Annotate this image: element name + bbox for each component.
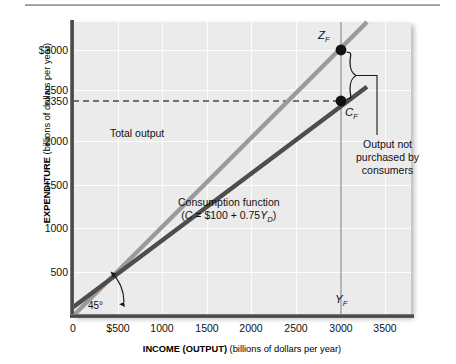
annotation-yf: YF — [335, 292, 347, 309]
annotation-output-not-purchased: Output not purchased by consumers — [335, 138, 440, 177]
annotation-output-not-line1: Output not — [363, 138, 412, 150]
y-tick-500: 500 — [0, 266, 68, 278]
eq-close-paren: ) — [273, 209, 277, 221]
annotation-yf-main: Y — [335, 293, 343, 305]
y-axis-title: EXPENDITURE (billions of dollars per yea… — [42, 38, 52, 228]
annotation-consumption-function-equation: (C = $100 + 0.75YD) — [181, 209, 276, 221]
x-axis-line — [70, 314, 414, 318]
y-tick-1500: 1500 — [0, 179, 68, 191]
annotation-cf-subscript: F — [353, 112, 358, 121]
x-tick-500: $500 — [106, 322, 129, 334]
x-tick-2000: 2000 — [239, 322, 262, 334]
y-axis-title-bold: EXPENDITURE — [42, 157, 52, 223]
x-tick-1500: 1500 — [195, 322, 218, 334]
figure-container: $3000 2500 2350 2000 1500 1000 500 0 $50… — [0, 0, 456, 364]
annotation-output-not-line3: consumers — [362, 164, 413, 176]
y-axis-line — [70, 20, 74, 318]
annotation-consumption-function: Consumption function (C = $100 + 0.75YD) — [178, 196, 280, 225]
x-tick-1000: 1000 — [150, 322, 173, 334]
x-axis-title-rest: (billions of dollars per year) — [227, 344, 341, 354]
eq-operator: = $100 + 0.75 — [192, 209, 260, 221]
x-axis-title-bold: INCOME (OUTPUT) — [143, 344, 227, 354]
y-axis-title-rest: (billions of dollars per year) — [42, 43, 52, 157]
x-tick-3000: 3000 — [329, 322, 352, 334]
annotation-cf: CF — [345, 105, 358, 122]
annotation-zf-subscript: F — [325, 35, 330, 44]
brace-leader-line — [356, 76, 377, 136]
annotation-output-not-line2: purchased by — [356, 151, 419, 163]
annotation-consumption-function-line1: Consumption function — [178, 196, 280, 208]
annotation-yf-subscript: F — [343, 299, 348, 308]
y-tick-500-label: 500 — [50, 266, 68, 278]
x-tick-2500: 2500 — [284, 322, 307, 334]
top-divider-rule — [25, 4, 440, 6]
x-tick-3500: 3500 — [373, 322, 396, 334]
brace-output-not-purchased — [347, 52, 356, 99]
y-tick-1000: 1000 — [0, 222, 68, 234]
annotation-zf: ZF — [318, 28, 330, 45]
annotation-zf-main: Z — [318, 29, 325, 41]
y-tick-2350: 2350 — [0, 95, 68, 107]
y-tick-2000: 2000 — [0, 135, 68, 147]
marker-point-zf[interactable] — [336, 45, 347, 56]
y-tick-3000: $3000 — [0, 44, 68, 56]
annotation-total-output: Total output — [110, 127, 164, 140]
x-tick-0: 0 — [70, 322, 76, 334]
annotation-45-degree: 45° — [88, 300, 103, 313]
angle-arrowhead-lower — [119, 302, 125, 307]
x-axis-title: INCOME (OUTPUT) (billions of dollars per… — [73, 344, 411, 354]
